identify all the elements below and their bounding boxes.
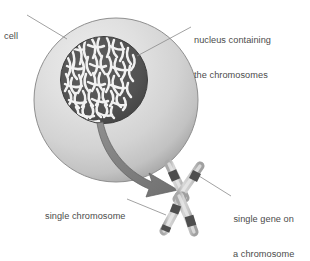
gene-band-lower-left-a	[174, 205, 177, 213]
label-single-gene-line-1: single gene on	[233, 214, 294, 226]
label-nucleus-line-2: the chromosomes	[194, 70, 271, 82]
gene-band-lower-left-b	[165, 226, 167, 231]
label-single-chromosome-line-1: single chromosome	[45, 211, 126, 223]
label-single-chromosome: single chromosome	[45, 188, 126, 234]
gene-band-upper-right	[193, 172, 197, 180]
cell-leader-line	[27, 15, 67, 39]
gene-band-lower-right	[189, 216, 192, 226]
label-single-gene-line-2: a chromosome	[233, 249, 294, 261]
label-nucleus-line-1: nucleus containing	[194, 35, 271, 47]
gene-band-upper-left	[172, 171, 176, 180]
single-gene-leader-line	[199, 176, 231, 196]
single-chromosome-figure	[164, 164, 200, 232]
label-single-gene: single gene on a chromosome	[233, 191, 294, 261]
label-nucleus: nucleus containing the chromosomes	[194, 12, 271, 93]
nucleus-body	[61, 37, 148, 124]
label-cell-line-1: cell	[4, 31, 18, 43]
single-chromosome-leader-line	[127, 199, 166, 215]
label-cell: cell	[4, 8, 18, 54]
